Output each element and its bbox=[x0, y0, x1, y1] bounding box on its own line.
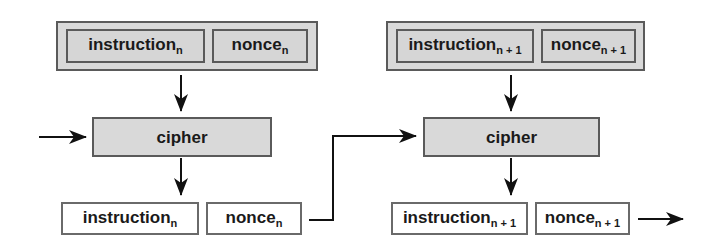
input-instruction-n1: instructionn + 1 bbox=[396, 29, 534, 63]
output-instruction-n1-label: instructionn + 1 bbox=[403, 209, 516, 229]
cipher-n-label: cipher bbox=[156, 129, 207, 146]
output-instruction-n: instructionn bbox=[61, 202, 199, 235]
output-instruction-n-label: instructionn bbox=[83, 209, 178, 229]
input-nonce-n1-label: noncen + 1 bbox=[551, 36, 626, 56]
output-nonce-n: noncen bbox=[206, 202, 302, 235]
input-nonce-n1: noncen + 1 bbox=[541, 29, 636, 63]
cipher-n1-label: cipher bbox=[486, 129, 537, 146]
output-instruction-n1: instructionn + 1 bbox=[391, 202, 528, 235]
cipher-n: cipher bbox=[92, 117, 272, 157]
input-instruction-n-label: instructionn bbox=[88, 36, 183, 56]
cipher-n1: cipher bbox=[423, 117, 600, 157]
output-nonce-n-label: noncen bbox=[226, 209, 283, 229]
input-instruction-n1-label: instructionn + 1 bbox=[408, 36, 521, 56]
input-nonce-n-label: noncen bbox=[232, 36, 289, 56]
input-instruction-n: instructionn bbox=[66, 29, 205, 63]
input-nonce-n: noncen bbox=[212, 29, 308, 63]
output-nonce-n1-label: noncen + 1 bbox=[545, 209, 620, 229]
output-nonce-n1: noncen + 1 bbox=[535, 202, 630, 235]
